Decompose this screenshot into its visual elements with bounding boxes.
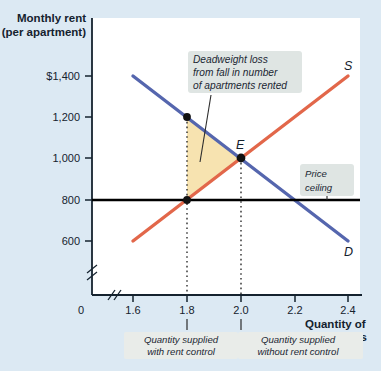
price-ceiling-callout-line-2: ceiling (305, 182, 333, 193)
y-tick-label-800: 800 (62, 194, 80, 206)
marker-equilibrium-E (237, 154, 246, 163)
x-axis-title-line-1: Quantity of (305, 318, 366, 330)
chart-figure: $1,400 1,200 1,000 800 600 0 1.6 1.8 2.0… (0, 0, 381, 371)
y-tick-label-1400: $1,400 (46, 70, 80, 82)
deadweight-loss-callout-line-3: of apartments rented (193, 80, 287, 91)
supply-demand-chart-svg: $1,400 1,200 1,000 800 600 0 1.6 1.8 2.0… (0, 0, 381, 371)
x-origin-label: 0 (78, 304, 84, 316)
x-tick-label-2-0: 2.0 (233, 304, 248, 316)
y-axis-title-line-1: Monthly rent (17, 12, 86, 24)
marker-demand-at-1-8 (183, 113, 191, 121)
price-ceiling-callout-line-1: Price (305, 168, 327, 179)
price-ceiling-callout: Price ceiling (300, 164, 354, 200)
quantity-without-rent-control-line-2: without rent control (257, 346, 339, 357)
y-axis-title-line-2: (per apartment) (2, 26, 87, 38)
demand-curve-label: D (344, 245, 353, 259)
equilibrium-point-label: E (236, 138, 245, 152)
deadweight-loss-callout-line-2: from fall in number (193, 67, 278, 78)
x-tick-label-1-8: 1.8 (179, 304, 194, 316)
y-tick-label-1000: 1,000 (52, 152, 80, 164)
x-tick-label-2-2: 2.2 (287, 304, 302, 316)
marker-supply-at-ceiling (183, 196, 191, 204)
quantity-with-rent-control-line-2: with rent control (147, 346, 216, 357)
x-tick-label-2-4: 2.4 (340, 304, 355, 316)
deadweight-loss-callout-line-1: Deadweight loss (193, 54, 268, 65)
x-tick-label-1-6: 1.6 (125, 304, 140, 316)
y-tick-label-600: 600 (62, 235, 80, 247)
quantity-with-rent-control-line-1: Quantity supplied (144, 334, 219, 345)
y-tick-label-1200: 1,200 (52, 111, 80, 123)
quantity-without-rent-control-line-1: Quantity supplied (261, 334, 336, 345)
supply-curve-label: S (344, 59, 353, 73)
